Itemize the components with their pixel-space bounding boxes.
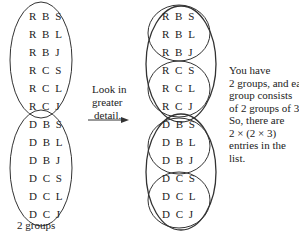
- explanation-line: You have: [229, 64, 299, 77]
- left-entry: D B S: [29, 118, 63, 130]
- arrow-label-line-1: Look in: [92, 83, 127, 95]
- right-entry: R C L: [162, 82, 196, 94]
- arrow-head-icon: [121, 117, 129, 123]
- explanation-text: You have 2 groups, and each group consis…: [229, 64, 299, 164]
- arrow-label-line-2: greater: [92, 96, 123, 108]
- arrow-label-line-3: detail.: [94, 109, 121, 121]
- left-entry: R B J: [29, 46, 61, 58]
- left-entry: R B L: [29, 28, 63, 40]
- left-entry: D C L: [29, 190, 64, 202]
- right-entry: D B L: [162, 136, 197, 148]
- left-caption: 2 groups: [17, 219, 55, 231]
- right-entry: R B S: [162, 10, 196, 22]
- left-entry: D C S: [29, 172, 63, 184]
- explanation-line: 2 × (2 × 3): [229, 127, 299, 140]
- right-entry: D C J: [162, 208, 195, 220]
- explanation-line: entries in the: [229, 139, 299, 152]
- explanation-line: So, there are: [229, 114, 299, 127]
- right-entry: D B S: [162, 118, 196, 130]
- right-entry: D C L: [162, 190, 197, 202]
- right-entry: D C S: [162, 172, 196, 184]
- explanation-line: group consists: [229, 89, 299, 102]
- left-entry: D B J: [29, 154, 62, 166]
- explanation-line: list.: [229, 152, 299, 165]
- right-entry: R B L: [162, 28, 196, 40]
- left-entry: R C L: [29, 82, 63, 94]
- left-entry: R B S: [29, 10, 63, 22]
- left-entry: D B L: [29, 136, 64, 148]
- right-entry: R C J: [162, 100, 194, 112]
- right-entry: D B J: [162, 154, 195, 166]
- left-entry: R C J: [29, 100, 61, 112]
- right-entry: R C S: [162, 64, 196, 76]
- explanation-line: of 2 groups of 3.: [229, 102, 299, 115]
- left-entry: R C S: [29, 64, 63, 76]
- explanation-line: 2 groups, and each: [229, 77, 299, 90]
- right-entry: R B J: [162, 46, 194, 58]
